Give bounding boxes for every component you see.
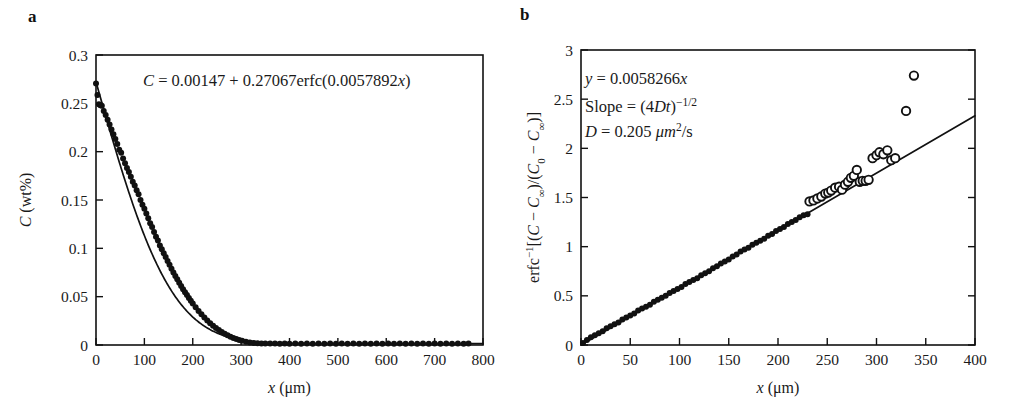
panel-a-xtick-label: 0 [92, 351, 100, 368]
panel-a-equation-annotation: C = 0.00147 + 0.27067erfc(0.0057892x) [143, 71, 410, 90]
panel-b-ytick-label: 1 [565, 238, 573, 255]
panel-a-ytick-label: 0.2 [69, 143, 88, 160]
panel-a-xtick-label: 600 [375, 351, 399, 368]
panel-a-ytick-label: 0.25 [61, 95, 88, 112]
panel-a-ytick-label: 0.05 [61, 288, 88, 305]
panel-b-ticks: 05010015020025030035040000.511.522.53 [554, 42, 987, 369]
panel-a-ytick-label: 0 [80, 337, 88, 354]
panel-b-frame [581, 50, 975, 345]
panel-b-ytick-label: 2.5 [554, 91, 574, 108]
panel-b-equation-annotation: y = 0.0058266x [583, 69, 688, 88]
panel-a-datapoint [118, 150, 124, 156]
panel-b-xtick-label: 0 [577, 351, 585, 368]
panel-a-xtick-label: 300 [230, 351, 254, 368]
panel-b-datapoint-open [891, 154, 899, 162]
panel-a-fit-curve [96, 82, 483, 344]
panel-b-ytick-label: 0 [565, 337, 573, 354]
panel-b-datapoint-open [864, 176, 872, 184]
panel-b-xtick-label: 350 [914, 351, 938, 368]
panel-a-xtick-label: 800 [471, 351, 495, 368]
panel-b-ytick-label: 2 [565, 140, 573, 157]
panel-b-xtick-label: 400 [963, 351, 987, 368]
panel-a-datapoints [93, 81, 471, 347]
panel-b-datapoint-open [902, 107, 910, 115]
panel-b-xtick-label: 200 [766, 351, 790, 368]
panel-a-datapoint [136, 191, 142, 197]
panel-a-xtick-label: 400 [278, 351, 302, 368]
panel-a-xtick-label: 100 [133, 351, 157, 368]
panel-b: b 05010015020025030035040000.511.522.53 … [508, 0, 1016, 405]
panel-b-datapoint-filled [805, 211, 811, 217]
panel-b-xtick-label: 250 [816, 351, 840, 368]
panel-b-xtick-label: 300 [865, 351, 889, 368]
panel-b-ytick-label: 3 [565, 42, 573, 59]
panel-b-xtick-label: 50 [623, 351, 639, 368]
panel-a-y-axis-title: C (wt%) [17, 173, 35, 228]
figure-diffusion-profile: a 010020030040050060070080000.050.10.150… [0, 0, 1016, 405]
panel-a-ticks: 010020030040050060070080000.050.10.150.2… [61, 47, 495, 369]
panel-b-xtick-label: 100 [668, 351, 692, 368]
panel-b-datapoint-open [910, 71, 918, 79]
panel-a: a 010020030040050060070080000.050.10.150… [0, 0, 508, 405]
panel-b-slope-annotation: Slope = (4Dt)−1/2 [585, 96, 697, 116]
panel-a-xtick-label: 200 [181, 351, 205, 368]
panel-a-xtick-label: 500 [326, 351, 350, 368]
panel-b-ytick-label: 1.5 [554, 189, 574, 206]
panel-a-plot: 010020030040050060070080000.050.10.150.2… [0, 0, 508, 405]
panel-b-datapoint-open [853, 166, 861, 174]
panel-a-ytick-label: 0.3 [69, 47, 89, 64]
panel-a-xtick-label: 700 [423, 351, 447, 368]
panel-b-diffusivity-annotation: D = 0.205 μm2/s [584, 121, 693, 141]
panel-a-ytick-label: 0.1 [69, 240, 88, 257]
panel-b-plot: 05010015020025030035040000.511.522.53 x … [508, 0, 1016, 405]
panel-a-ytick-label: 0.15 [61, 192, 88, 209]
panel-b-x-axis-title: x (μm) [756, 379, 800, 397]
panel-a-x-axis-title: x (μm) [267, 379, 311, 397]
panel-b-y-axis-title: erfc−1[(C − C∞)/(C0 − C∞)] [523, 112, 547, 283]
panel-b-xtick-label: 150 [717, 351, 741, 368]
panel-b-datapoint-open [883, 146, 891, 154]
panel-b-ytick-label: 0.5 [554, 287, 574, 304]
panel-a-frame [96, 55, 483, 345]
